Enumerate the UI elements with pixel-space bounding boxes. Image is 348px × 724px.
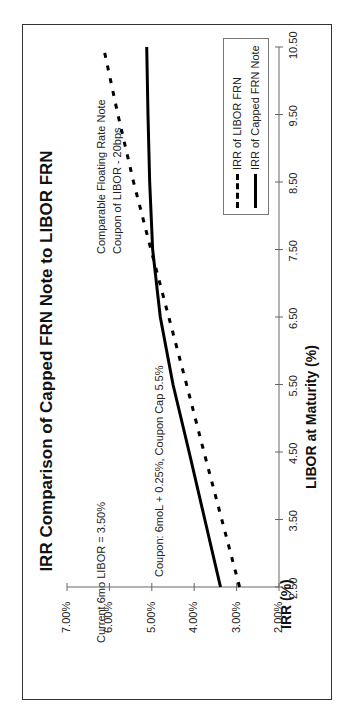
y-tick-label: 2.00% [272, 602, 284, 633]
x-tick-label: 10.50 [287, 31, 299, 59]
x-tick-label: 2.50 [287, 578, 299, 599]
dashed-line-swatch-icon [236, 174, 239, 208]
x-tick-label: 4.50 [287, 443, 299, 464]
x-tick-label: 3.50 [287, 510, 299, 531]
y-tick-label: 3.00% [230, 602, 242, 633]
x-tick-label: 5.50 [287, 375, 299, 396]
y-tick-label: 6.00% [102, 602, 114, 633]
x-tick-label: 8.50 [287, 173, 299, 194]
x-tick-label: 7.50 [287, 240, 299, 261]
y-tick-label: 4.00% [187, 602, 199, 633]
legend-item-capped-frn: IRR of Capped FRN Note [246, 45, 264, 208]
legend: IRR of LIBOR FRN IRR of Capped FRN Note [223, 38, 269, 215]
chart-frame: IRR Comparison of Capped FRN Note to LIB… [22, 24, 332, 700]
legend-item-libor-frn: IRR of LIBOR FRN [228, 45, 246, 208]
page: IRR Comparison of Capped FRN Note to LIB… [0, 0, 348, 724]
x-tick-label: 6.50 [287, 308, 299, 329]
y-tick-label: 7.00% [60, 602, 72, 633]
series-libor-frn-line [103, 47, 239, 587]
solid-line-swatch-icon [254, 174, 257, 208]
series-capped-frn-line [147, 47, 221, 587]
y-tick-label: 5.00% [145, 602, 157, 633]
x-tick-label: 9.50 [287, 105, 299, 126]
